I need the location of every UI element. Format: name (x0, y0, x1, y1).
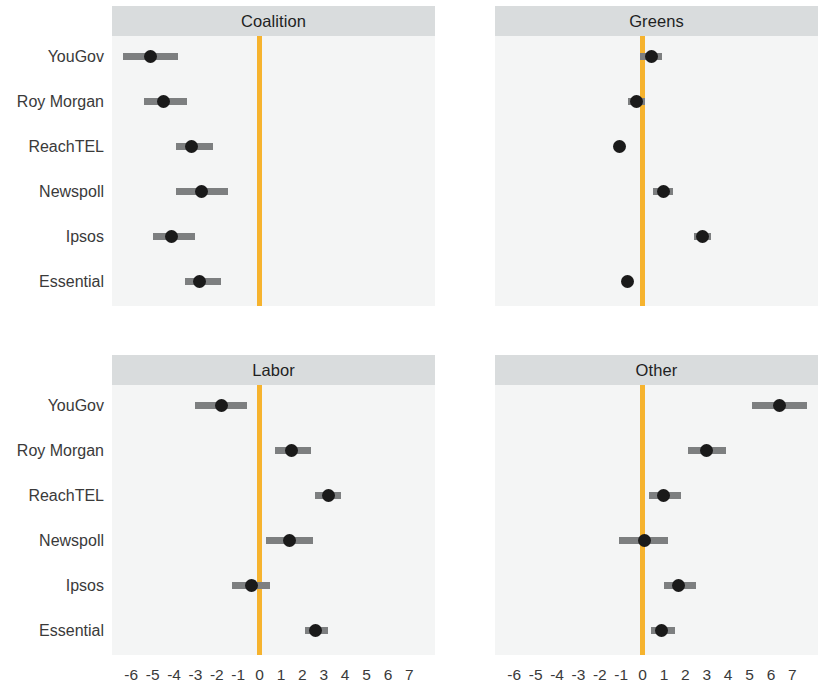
data-point-marker (630, 95, 643, 108)
y-axis-tick-label-yougov: YouGov (48, 49, 104, 65)
data-point-marker (193, 275, 206, 288)
facet-title: Greens (629, 13, 684, 30)
data-point-marker (144, 50, 157, 63)
data-point-marker (322, 489, 335, 502)
x-axis-tick-label: 4 (724, 667, 733, 683)
x-axis-tick-label: 3 (702, 667, 711, 683)
x-axis-tick-label: 2 (681, 667, 690, 683)
plot-area-greens (495, 36, 818, 306)
x-axis-tick-label: 0 (255, 667, 264, 683)
x-axis-tick-label: 1 (660, 667, 669, 683)
x-axis-tick-label: -6 (507, 667, 521, 683)
x-axis-tick-label: -1 (614, 667, 628, 683)
x-axis-tick-label: 5 (362, 667, 371, 683)
data-point-marker (613, 140, 626, 153)
x-axis-tick-label: -5 (146, 667, 160, 683)
data-point-marker (657, 489, 670, 502)
plot-area-labor (112, 385, 435, 655)
x-axis-tick-label: -4 (167, 667, 181, 683)
x-axis-tick-label: -5 (529, 667, 543, 683)
data-point-marker (285, 444, 298, 457)
facet-title: Other (636, 362, 678, 379)
facet-strip-coalition: Coalition (112, 6, 435, 36)
y-axis-tick-label-reachtel: ReachTEL (28, 139, 104, 155)
facet-title: Labor (252, 362, 295, 379)
data-point-marker (645, 50, 658, 63)
data-point-marker (773, 399, 786, 412)
x-axis-tick-label: -4 (550, 667, 564, 683)
y-axis-tick-label-yougov: YouGov (48, 398, 104, 414)
data-point-marker (215, 399, 228, 412)
y-axis-tick-label-ipsos: Ipsos (66, 229, 104, 245)
y-axis-tick-label-ipsos: Ipsos (66, 578, 104, 594)
x-axis-other: -6-5-4-3-2-101234567 (495, 667, 818, 684)
x-axis-tick-label: 5 (745, 667, 754, 683)
x-axis-tick-label: 1 (277, 667, 286, 683)
x-axis-tick-label: 7 (788, 667, 797, 683)
y-axis-label-column: YouGovRoy MorganReachTELNewspollIpsosEss… (0, 385, 104, 655)
facet-panel-coalition: Coalition (112, 6, 435, 306)
data-point-marker (283, 534, 296, 547)
data-point-marker (621, 275, 634, 288)
data-point-marker (245, 579, 258, 592)
x-axis-labor: -6-5-4-3-2-101234567 (112, 667, 435, 684)
plot-area-coalition (112, 36, 435, 306)
facet-panel-greens: Greens (495, 6, 818, 306)
facet-strip-greens: Greens (495, 6, 818, 36)
y-axis-tick-label-essential: Essential (39, 623, 104, 639)
y-axis-tick-label-newspoll: Newspoll (39, 533, 104, 549)
facet-panel-other: Other (495, 355, 818, 655)
data-point-marker (672, 579, 685, 592)
zero-reference-line (640, 385, 645, 655)
data-point-marker (700, 444, 713, 457)
facet-panel-labor: Labor (112, 355, 435, 655)
x-axis-tick-label: 6 (767, 667, 776, 683)
facet-title: Coalition (241, 13, 306, 30)
x-axis-tick-label: 6 (384, 667, 393, 683)
x-axis-tick-label: -3 (572, 667, 586, 683)
x-axis-tick-label: -1 (231, 667, 245, 683)
plot-area-other (495, 385, 818, 655)
x-axis-tick-label: 3 (319, 667, 328, 683)
zero-reference-line (257, 36, 262, 306)
y-axis-tick-label-essential: Essential (39, 274, 104, 290)
x-axis-tick-label: 2 (298, 667, 307, 683)
zero-reference-line (257, 385, 262, 655)
y-axis-label-column: YouGovRoy MorganReachTELNewspollIpsosEss… (0, 36, 104, 306)
data-point-marker (655, 624, 668, 637)
data-point-marker (165, 230, 178, 243)
y-axis-tick-label-newspoll: Newspoll (39, 184, 104, 200)
facet-strip-other: Other (495, 355, 818, 385)
x-axis-tick-label: -6 (124, 667, 138, 683)
data-point-marker (185, 140, 198, 153)
y-axis-tick-label-roy-morgan: Roy Morgan (17, 94, 104, 110)
data-point-marker (157, 95, 170, 108)
facet-strip-labor: Labor (112, 355, 435, 385)
data-point-marker (195, 185, 208, 198)
y-axis-tick-label-roy-morgan: Roy Morgan (17, 443, 104, 459)
x-axis-tick-label: -3 (189, 667, 203, 683)
data-point-marker (638, 534, 651, 547)
data-point-marker (696, 230, 709, 243)
x-axis-tick-label: 4 (341, 667, 350, 683)
zero-reference-line (640, 36, 645, 306)
data-point-marker (657, 185, 670, 198)
x-axis-tick-label: -2 (210, 667, 224, 683)
x-axis-tick-label: 0 (638, 667, 647, 683)
data-point-marker (309, 624, 322, 637)
x-axis-tick-label: -2 (593, 667, 607, 683)
x-axis-tick-label: 7 (405, 667, 414, 683)
y-axis-tick-label-reachtel: ReachTEL (28, 488, 104, 504)
